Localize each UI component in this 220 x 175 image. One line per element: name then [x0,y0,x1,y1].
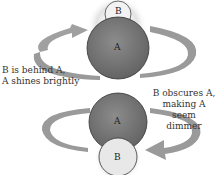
caption-top-line-2: A shines brightly [2,76,79,87]
star-a-top-label: A [113,42,121,52]
star-b-top-label: B [115,6,122,16]
caption-top-line-1: B is behind A, [2,65,79,76]
caption-top: B is behind A, A shines brightly [2,65,79,87]
caption-bottom-line-1: B obscures A, [150,88,218,99]
star-b-bottom-label: B [114,152,121,162]
orbit-arrow-back [38,24,88,52]
star-a-bottom-label: A [113,116,121,126]
caption-bottom-line-2: making A seem [150,99,218,121]
orbit-arrow-back-bottom [42,108,90,152]
caption-bottom: B obscures A, making A seem dimmer [150,88,218,132]
caption-bottom-line-3: dimmer [150,121,218,132]
